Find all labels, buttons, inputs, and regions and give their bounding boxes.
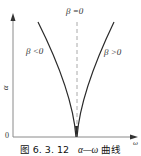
y-axis-label: α xyxy=(0,86,10,91)
alpha-omega-diagram xyxy=(0,0,141,156)
figure-caption: 图 6. 3. 12 α—ω 曲线 xyxy=(0,144,141,156)
annotation-beta-negative: β <0 xyxy=(26,46,43,56)
origin-label: 0 xyxy=(5,131,9,141)
annotation-beta-zero: β =0 xyxy=(66,6,83,16)
y-axis-arrow-icon xyxy=(11,13,16,21)
caption-variables: α—ω xyxy=(78,145,98,155)
caption-text: 曲线 xyxy=(101,144,121,155)
beta-positive-curve xyxy=(77,22,114,137)
beta-negative-curve xyxy=(38,22,76,137)
annotation-beta-positive: β >0 xyxy=(104,47,121,57)
caption-number: 图 6. 3. 12 xyxy=(20,144,69,155)
